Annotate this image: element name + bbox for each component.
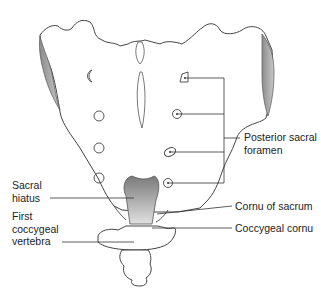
label-posterior-sacral-foramen-line1: Posterior sacral — [244, 131, 317, 144]
label-first-coccygeal-vertebra: First coccygeal vertebra — [12, 210, 59, 248]
label-first-coccygeal-vertebra-line2: coccygeal — [12, 223, 59, 236]
label-cornu-of-sacrum: Cornu of sacrum — [235, 200, 313, 213]
sacral-hiatus-region — [124, 176, 159, 224]
label-posterior-sacral-foramen-line2: foramen — [244, 144, 317, 157]
label-sacral-hiatus-line2: hiatus — [12, 192, 42, 205]
first-coccygeal-vertebra-shape — [98, 226, 176, 250]
lower-coccyx — [120, 250, 151, 286]
label-coccygeal-cornu: Coccygeal cornu — [235, 222, 313, 235]
label-posterior-sacral-foramen: Posterior sacral foramen — [244, 131, 317, 156]
label-first-coccygeal-vertebra-line1: First — [12, 210, 59, 223]
label-sacral-hiatus: Sacral hiatus — [12, 179, 42, 204]
label-first-coccygeal-vertebra-line3: vertebra — [12, 235, 59, 248]
label-sacral-hiatus-line1: Sacral — [12, 179, 42, 192]
